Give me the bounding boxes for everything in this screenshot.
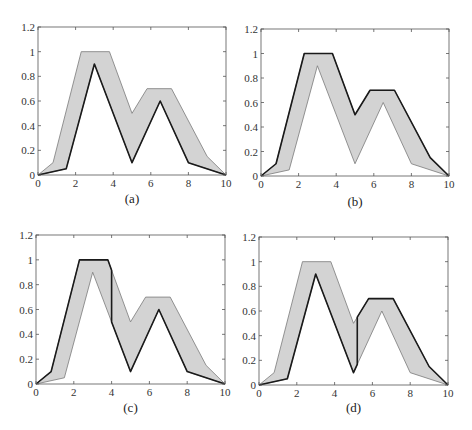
- figure-canvas: 024681000.20.40.60.811.2(a)024681000.20.…: [0, 0, 472, 430]
- y-tick-label: 0.6: [242, 305, 256, 317]
- panel-b: 024681000.20.40.60.811.2(b): [244, 23, 455, 209]
- x-tick-label: 2: [294, 387, 300, 399]
- x-tick-label: 4: [333, 178, 339, 190]
- x-tick-label: 2: [73, 177, 79, 189]
- y-tick-label: 0.4: [21, 120, 35, 132]
- panel-caption: (d): [346, 400, 361, 415]
- x-tick-label: 8: [184, 386, 190, 398]
- y-tick-label: 0.2: [21, 144, 35, 156]
- x-tick-label: 10: [220, 386, 232, 398]
- x-tick-label: 2: [296, 178, 302, 190]
- y-tick-label: 1: [28, 254, 34, 266]
- x-tick-label: 10: [444, 178, 456, 190]
- x-tick-label: 10: [443, 387, 455, 399]
- panel-caption: (b): [347, 194, 362, 209]
- y-tick-label: 1: [251, 256, 257, 268]
- panel-caption: (a): [125, 191, 139, 206]
- x-tick-label: 8: [409, 178, 415, 190]
- y-tick-label: 0.6: [19, 304, 33, 316]
- y-tick-label: 0.8: [19, 279, 33, 291]
- y-tick-label: 1: [253, 48, 259, 60]
- y-tick-label: 0: [251, 379, 257, 391]
- x-tick-label: 6: [147, 386, 153, 398]
- x-tick-label: 4: [332, 387, 338, 399]
- y-tick-label: 0: [253, 170, 259, 182]
- x-tick-label: 0: [33, 386, 39, 398]
- y-tick-label: 0: [30, 169, 36, 181]
- x-tick-label: 2: [71, 386, 77, 398]
- y-tick-label: 1.2: [244, 23, 258, 35]
- y-tick-label: 0.8: [242, 280, 256, 292]
- x-tick-label: 8: [407, 387, 413, 399]
- y-tick-label: 0.4: [242, 330, 256, 342]
- x-tick-label: 0: [35, 177, 41, 189]
- x-tick-label: 0: [258, 178, 264, 190]
- x-tick-label: 0: [256, 387, 262, 399]
- x-tick-label: 6: [370, 387, 376, 399]
- y-tick-label: 0.2: [19, 353, 33, 365]
- y-tick-label: 0.8: [244, 72, 258, 84]
- y-tick-label: 0.4: [244, 121, 258, 133]
- panel-a: 024681000.20.40.60.811.2(a): [21, 21, 232, 206]
- panel-d: 024681000.20.40.60.811.2(d): [242, 231, 454, 415]
- x-tick-label: 6: [371, 178, 377, 190]
- x-tick-label: 6: [148, 177, 154, 189]
- y-tick-label: 0.6: [21, 95, 35, 107]
- panel-c: 024681000.20.40.60.811.2(c): [19, 229, 231, 415]
- y-tick-label: 0: [28, 378, 34, 390]
- y-tick-label: 0.2: [242, 354, 256, 366]
- y-tick-label: 1.2: [19, 229, 33, 241]
- y-tick-label: 0.4: [19, 328, 33, 340]
- x-tick-label: 8: [186, 177, 192, 189]
- y-tick-label: 0.6: [244, 97, 258, 109]
- y-tick-label: 0.2: [244, 146, 258, 158]
- x-tick-label: 10: [221, 177, 233, 189]
- y-tick-label: 1.2: [21, 21, 35, 33]
- y-tick-label: 1.2: [242, 231, 256, 243]
- x-tick-label: 4: [109, 386, 115, 398]
- y-tick-label: 1: [30, 46, 36, 58]
- y-tick-label: 0.8: [21, 70, 35, 82]
- x-tick-label: 4: [110, 177, 116, 189]
- panel-caption: (c): [123, 400, 137, 415]
